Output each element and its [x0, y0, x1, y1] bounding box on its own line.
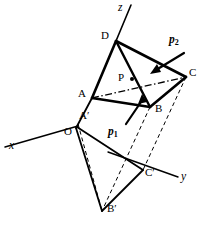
point-P-dot [130, 77, 134, 81]
y-axis-line [108, 152, 178, 177]
vector-label-p2-base: p [169, 33, 175, 45]
point-label-B-prime: B′ [107, 203, 117, 214]
axis-label-z: z [118, 2, 122, 14]
projector-C-Cprime [143, 77, 186, 170]
point-label-C-prime: C′ [145, 167, 155, 178]
point-label-D: D [101, 30, 109, 41]
edge-D-A [92, 41, 116, 98]
axes-group [5, 5, 178, 177]
point-label-P: P [118, 72, 124, 83]
axis-label-x: x [9, 140, 14, 152]
point-label-O: O [64, 126, 72, 137]
p2-arrow-head [150, 64, 161, 74]
point-label-A-prime: A′ [79, 110, 89, 121]
geometry-figure: x y z D C A B P A′ O C′ B′ p1 p2 [0, 0, 201, 226]
vector-label-p2: p2 [169, 34, 179, 46]
point-label-B: B [155, 103, 162, 114]
point-label-A: A [78, 88, 86, 99]
vector-label-p1-base: p [108, 125, 114, 137]
axis-label-y: y [181, 171, 186, 183]
vector-label-p1: p1 [108, 126, 118, 138]
vector-label-p2-subscript: 2 [175, 38, 179, 47]
tetrahedron-edges-group [92, 41, 186, 107]
point-markers-group [130, 77, 134, 81]
point-label-C: C [189, 67, 196, 78]
vector-label-p1-subscript: 1 [114, 130, 118, 139]
